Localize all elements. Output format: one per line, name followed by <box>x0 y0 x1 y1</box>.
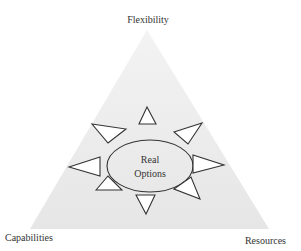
label-capabilities: Capabilities <box>5 232 53 243</box>
center-label-line2: Options <box>134 168 166 179</box>
label-resources: Resources <box>245 235 286 246</box>
center-label-line1: Real <box>141 154 160 165</box>
real-options-diagram: Flexibility Capabilities Resources Real … <box>0 0 301 251</box>
label-flexibility: Flexibility <box>127 14 169 25</box>
